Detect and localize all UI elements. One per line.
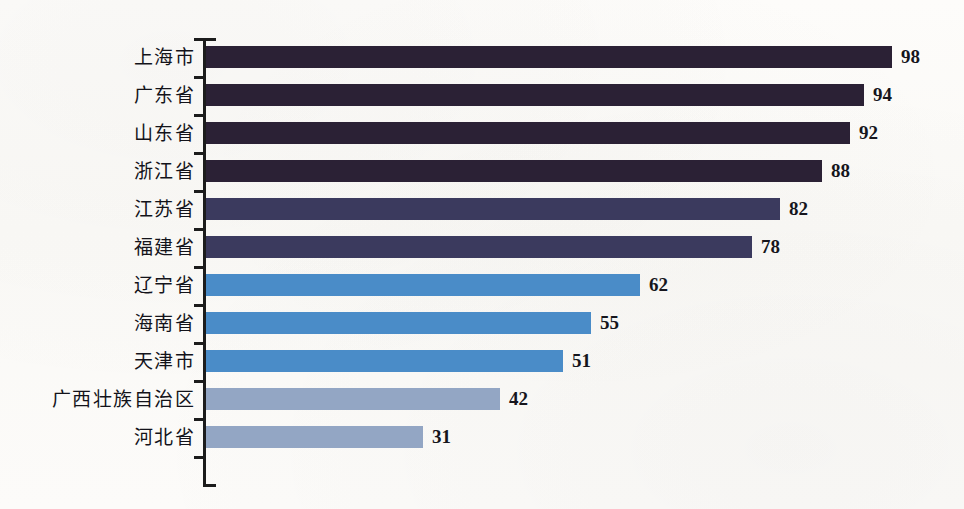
bar-row: 江苏省82 [0, 190, 964, 228]
bar-row: 天津市51 [0, 342, 964, 380]
bar [206, 274, 640, 296]
category-label: 浙江省 [0, 152, 195, 190]
bar [206, 122, 850, 144]
bar-row: 上海市98 [0, 38, 964, 76]
bar [206, 426, 423, 448]
bar [206, 198, 780, 220]
bar-row: 广西壮族自治区42 [0, 380, 964, 418]
axis-bottom-cap [203, 484, 216, 487]
category-label: 上海市 [0, 38, 195, 76]
category-label: 福建省 [0, 228, 195, 266]
bar [206, 350, 563, 372]
bar-value-label: 62 [649, 274, 668, 296]
bar-value-label: 92 [859, 122, 878, 144]
bar-row: 河北省31 [0, 418, 964, 456]
plot-area: 上海市98广东省94山东省92浙江省88江苏省82福建省78辽宁省62海南省55… [0, 0, 964, 509]
bar-row: 广东省94 [0, 76, 964, 114]
bar-value-label: 55 [600, 312, 619, 334]
category-label: 天津市 [0, 342, 195, 380]
category-label: 广西壮族自治区 [0, 380, 195, 418]
bar-row: 海南省55 [0, 304, 964, 342]
bar-row: 山东省92 [0, 114, 964, 152]
bar [206, 388, 500, 410]
axis-tick [194, 456, 206, 459]
bar-value-label: 82 [789, 198, 808, 220]
bar-value-label: 42 [509, 388, 528, 410]
bar-value-label: 31 [432, 426, 451, 448]
bar [206, 236, 752, 258]
bar-row: 浙江省88 [0, 152, 964, 190]
bar-value-label: 78 [761, 236, 780, 258]
bar [206, 160, 822, 182]
bar-value-label: 51 [572, 350, 591, 372]
bar-value-label: 88 [831, 160, 850, 182]
bar [206, 46, 892, 68]
category-label: 海南省 [0, 304, 195, 342]
category-label: 江苏省 [0, 190, 195, 228]
bar-chart: 上海市98广东省94山东省92浙江省88江苏省82福建省78辽宁省62海南省55… [0, 0, 964, 509]
category-label: 山东省 [0, 114, 195, 152]
category-label: 辽宁省 [0, 266, 195, 304]
category-label: 河北省 [0, 418, 195, 456]
bar [206, 84, 864, 106]
bar-value-label: 94 [873, 84, 892, 106]
bar-value-label: 98 [901, 46, 920, 68]
bar-row: 辽宁省62 [0, 266, 964, 304]
category-label: 广东省 [0, 76, 195, 114]
bar-row: 福建省78 [0, 228, 964, 266]
bar [206, 312, 591, 334]
